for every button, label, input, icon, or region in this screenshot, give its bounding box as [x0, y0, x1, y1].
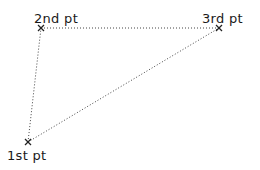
point-label-1st: 1st pt — [7, 149, 46, 162]
point-label-3rd: 3rd pt — [202, 12, 243, 25]
edge-1st-2nd — [28, 28, 41, 142]
point-label-2nd: 2nd pt — [34, 12, 78, 25]
x-mark-icon — [25, 139, 31, 145]
edge-1st-3rd — [28, 28, 219, 142]
